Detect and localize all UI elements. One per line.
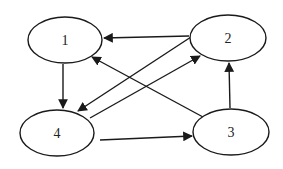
graph-diagram: 1 2 3 4 <box>0 0 283 169</box>
node-3-label: 3 <box>228 125 235 140</box>
edge-3-to-2 <box>229 63 230 108</box>
edge-2-to-1 <box>104 36 189 38</box>
node-4: 4 <box>20 110 94 156</box>
node-4-label: 4 <box>54 126 61 141</box>
node-2: 2 <box>190 15 266 61</box>
node-3: 3 <box>193 109 269 155</box>
edge-4-to-3 <box>100 136 192 140</box>
node-1: 1 <box>28 17 102 63</box>
node-1-label: 1 <box>62 33 69 48</box>
node-2-label: 2 <box>225 31 232 46</box>
